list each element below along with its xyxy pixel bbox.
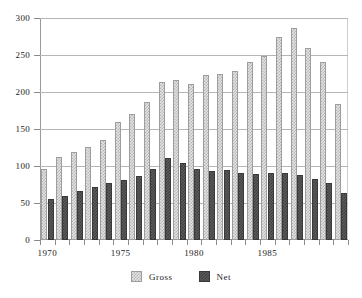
bar-group-1982 xyxy=(217,18,232,240)
x-tick-mark-5 xyxy=(113,240,114,245)
bar-net-1980 xyxy=(194,169,200,240)
x-tick-mark-19 xyxy=(319,240,320,245)
bar-net-1983 xyxy=(238,173,244,240)
bar-gross-1980 xyxy=(188,84,194,240)
bar-net-1977 xyxy=(150,169,156,240)
bar-net-1981 xyxy=(209,171,215,240)
x-tick-mark-20 xyxy=(333,240,334,245)
bar-gross-1972 xyxy=(71,152,77,240)
bar-net-1988 xyxy=(312,179,318,240)
net-swatch xyxy=(199,271,210,282)
bar-gross-1987 xyxy=(291,28,297,240)
bar-gross-1975 xyxy=(115,122,121,240)
y-tick-label-0: 0 xyxy=(4,236,30,245)
bar-gross-1988 xyxy=(305,48,311,240)
bar-net-1990 xyxy=(341,193,347,240)
bar-group-1972 xyxy=(71,18,86,240)
bar-gross-1985 xyxy=(261,56,267,240)
bar-gross-1978 xyxy=(159,82,165,240)
bar-group-1988 xyxy=(305,18,320,240)
x-tick-mark-10 xyxy=(187,240,188,245)
bar-group-1983 xyxy=(232,18,247,240)
x-tick-mark-2 xyxy=(69,240,70,245)
bar-group-1990 xyxy=(335,18,350,240)
bar-gross-1976 xyxy=(129,114,135,240)
y-tick-label-300: 300 xyxy=(4,14,30,23)
bar-gross-1984 xyxy=(247,62,253,240)
legend-entry-gross: Gross xyxy=(131,271,173,282)
bar-group-1981 xyxy=(203,18,218,240)
x-tick-mark-12 xyxy=(216,240,217,245)
x-tick-mark-3 xyxy=(84,240,85,245)
x-tick-label-1970: 1970 xyxy=(27,248,67,258)
x-tick-label-1980: 1980 xyxy=(174,248,214,258)
bar-group-1970 xyxy=(41,18,56,240)
x-tick-mark-0 xyxy=(40,240,41,245)
bar-net-1975 xyxy=(121,180,127,240)
bar-gross-1982 xyxy=(217,74,223,241)
bars-layer xyxy=(40,18,348,240)
bar-group-1986 xyxy=(276,18,291,240)
x-tick-mark-7 xyxy=(143,240,144,245)
bar-net-1985 xyxy=(268,173,274,240)
x-tick-mark-16 xyxy=(275,240,276,245)
x-tick-mark-4 xyxy=(99,240,100,245)
bar-net-1976 xyxy=(136,176,142,240)
bar-group-1974 xyxy=(100,18,115,240)
bar-gross-1989 xyxy=(320,62,326,240)
bar-gross-1974 xyxy=(100,140,106,240)
bar-net-1979 xyxy=(180,163,186,240)
gross-swatch xyxy=(131,271,142,282)
y-tick-label-200: 200 xyxy=(4,88,30,97)
bar-net-1973 xyxy=(92,187,98,240)
bar-net-1970 xyxy=(48,199,54,240)
bar-group-1980 xyxy=(188,18,203,240)
y-tick-label-250: 250 xyxy=(4,51,30,60)
x-tick-mark-1 xyxy=(55,240,56,245)
x-tick-mark-11 xyxy=(201,240,202,245)
bar-group-1971 xyxy=(56,18,71,240)
x-tick-mark-6 xyxy=(128,240,129,245)
x-tick-mark-18 xyxy=(304,240,305,245)
bar-net-1971 xyxy=(62,196,68,240)
y-tick-label-100: 100 xyxy=(4,162,30,171)
bar-net-1986 xyxy=(282,173,288,240)
legend-label-gross: Gross xyxy=(149,272,173,282)
bar-gross-1983 xyxy=(232,71,238,240)
x-tick-mark-9 xyxy=(172,240,173,245)
x-tick-mark-8 xyxy=(157,240,158,245)
bar-group-1979 xyxy=(173,18,188,240)
bar-group-1984 xyxy=(247,18,262,240)
bar-group-1987 xyxy=(291,18,306,240)
y-tick-label-50: 50 xyxy=(4,199,30,208)
legend-entry-net: Net xyxy=(199,271,232,282)
bar-net-1972 xyxy=(77,191,83,240)
bar-net-1989 xyxy=(326,183,332,240)
bar-gross-1981 xyxy=(203,75,209,240)
bar-gross-1977 xyxy=(144,102,150,240)
x-tick-mark-13 xyxy=(231,240,232,245)
x-tick-mark-21 xyxy=(348,240,349,245)
bar-group-1976 xyxy=(129,18,144,240)
x-tick-label-1975: 1975 xyxy=(101,248,141,258)
bar-gross-1990 xyxy=(335,104,341,240)
x-tick-mark-17 xyxy=(289,240,290,245)
bar-net-1974 xyxy=(106,183,112,240)
bar-gross-1986 xyxy=(276,37,282,241)
y-tick-label-150: 150 xyxy=(4,125,30,134)
bar-group-1978 xyxy=(159,18,174,240)
x-tick-mark-15 xyxy=(260,240,261,245)
bar-net-1982 xyxy=(224,170,230,240)
bar-gross-1973 xyxy=(85,147,91,240)
bar-gross-1970 xyxy=(41,169,47,240)
bar-net-1984 xyxy=(253,174,259,240)
bar-group-1977 xyxy=(144,18,159,240)
bar-net-1987 xyxy=(297,175,303,240)
bar-group-1973 xyxy=(85,18,100,240)
bar-gross-1979 xyxy=(173,80,179,240)
bar-group-1989 xyxy=(320,18,335,240)
x-tick-mark-14 xyxy=(245,240,246,245)
bar-gross-1971 xyxy=(56,157,62,240)
bar-group-1975 xyxy=(115,18,130,240)
bar-net-1978 xyxy=(165,158,171,240)
